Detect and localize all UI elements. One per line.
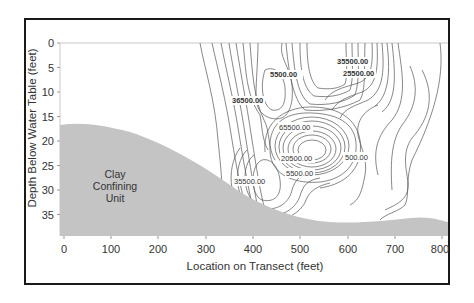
clay-label-line3: Unit [106,192,125,204]
svg-text:100: 100 [102,243,120,255]
contour-label: 35500.00 [234,177,265,186]
svg-text:200: 200 [149,243,167,255]
svg-text:500: 500 [291,243,309,255]
x-axis-label: Location on Transect (feet) [187,260,324,272]
y-axis-label: Depth Below Water Table (feet) [26,48,38,207]
contour-label: 5500.00 [270,70,297,79]
y-axis-ticks: 0 5 10 15 20 25 30 35 [42,37,60,221]
svg-text:300: 300 [197,243,215,255]
svg-text:20: 20 [42,135,54,147]
svg-text:15: 15 [42,111,54,123]
svg-text:5: 5 [48,62,54,74]
contour-label: 25500.00 [343,69,374,78]
svg-text:30: 30 [42,184,54,196]
contour-chart: 5500.00 35500.00 25500.00 36500.00 65500… [0,0,474,303]
x-axis-ticks: 0 100 200 300 400 500 600 700 800 [61,236,449,255]
contour-label: 65500.00 [279,123,310,132]
svg-text:0: 0 [48,37,54,49]
svg-text:10: 10 [42,86,54,98]
svg-text:0: 0 [61,243,67,255]
clay-label-line1: Clay [104,168,126,180]
contour-label: 5500.00 [286,169,313,178]
contour-label: 36500.00 [232,96,263,105]
contour-label: 500.00 [345,153,368,162]
svg-text:800: 800 [431,243,449,255]
contour-label: 35500.00 [337,57,368,66]
svg-text:25: 25 [42,160,54,172]
svg-text:700: 700 [386,243,404,255]
contour-label: 20500.00 [281,154,312,163]
svg-text:600: 600 [339,243,357,255]
svg-text:35: 35 [42,209,54,221]
svg-text:400: 400 [244,243,262,255]
clay-label-line2: Confining [93,180,138,192]
